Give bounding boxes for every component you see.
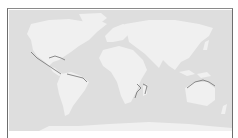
world-map-graphic [9, 10, 232, 131]
world-map [9, 10, 232, 131]
australia [185, 82, 215, 106]
map-frame [7, 8, 233, 138]
